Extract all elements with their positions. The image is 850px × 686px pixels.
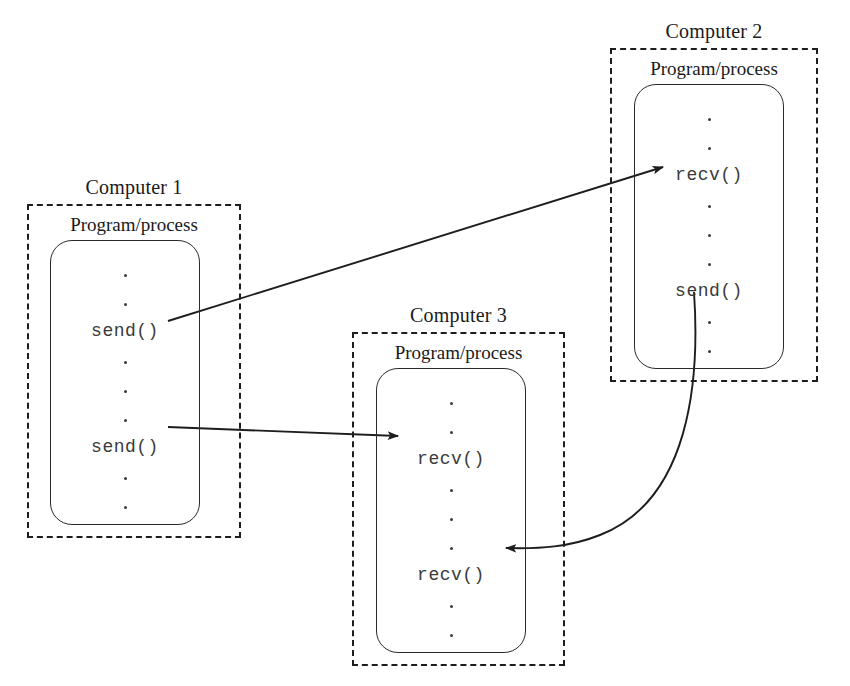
- code-ellipsis-dot: [50, 386, 200, 393]
- code-ellipsis-dot: [50, 299, 200, 306]
- process-label-1: Program/process: [27, 214, 241, 235]
- code-call-send: send(): [634, 282, 784, 300]
- code-column-1: send()send(): [50, 240, 200, 525]
- code-ellipsis-dot: [376, 630, 526, 637]
- code-call-send: send(): [50, 438, 200, 456]
- code-call-send: send(): [50, 322, 200, 340]
- code-ellipsis-dot: [634, 317, 784, 324]
- code-call-recv: recv(): [634, 166, 784, 184]
- code-ellipsis-dot: [376, 427, 526, 434]
- code-ellipsis-dot: [50, 270, 200, 277]
- code-ellipsis-dot: [50, 473, 200, 480]
- code-column-2: recv()send(): [634, 84, 784, 369]
- code-ellipsis-dot: [50, 357, 200, 364]
- diagram-canvas: Computer 1 Program/process send()send() …: [0, 0, 850, 686]
- code-ellipsis-dot: [634, 143, 784, 150]
- computer-label-2: Computer 2: [610, 20, 818, 42]
- code-ellipsis-dot: [634, 346, 784, 353]
- process-label-2: Program/process: [610, 58, 818, 79]
- code-ellipsis-dot: [634, 114, 784, 121]
- code-column-3: recv()recv(): [376, 368, 526, 653]
- computer-label-3: Computer 3: [352, 304, 565, 326]
- code-ellipsis-dot: [376, 543, 526, 550]
- code-ellipsis-dot: [634, 201, 784, 208]
- code-call-recv: recv(): [376, 450, 526, 468]
- process-label-3: Program/process: [352, 342, 565, 363]
- arrow-send1-to-recv-computer2: [168, 167, 663, 321]
- code-ellipsis-dot: [50, 502, 200, 509]
- code-ellipsis-dot: [376, 601, 526, 608]
- code-ellipsis-dot: [376, 485, 526, 492]
- code-ellipsis-dot: [634, 259, 784, 266]
- computer-label-1: Computer 1: [27, 176, 241, 198]
- code-ellipsis-dot: [50, 415, 200, 422]
- code-ellipsis-dot: [376, 514, 526, 521]
- code-call-recv: recv(): [376, 566, 526, 584]
- code-ellipsis-dot: [634, 230, 784, 237]
- code-ellipsis-dot: [376, 398, 526, 405]
